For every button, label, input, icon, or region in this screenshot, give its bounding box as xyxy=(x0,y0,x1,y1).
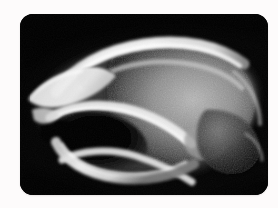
radiograph-image xyxy=(20,14,268,195)
radiograph-panel[interactable] xyxy=(20,14,268,195)
radiograph-canvas xyxy=(20,14,268,195)
film-grain-overlay xyxy=(20,14,268,195)
screenshot-root: Lateral skull radiograph X-ray lateral s… xyxy=(0,0,278,208)
